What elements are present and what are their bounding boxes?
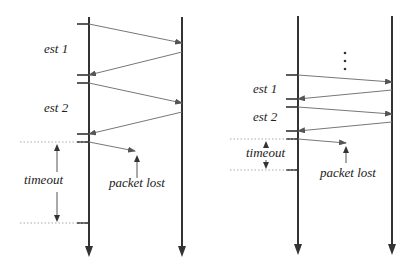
sender-timeline-arrow-icon [85, 246, 93, 257]
right-diagram: est 1est 2timeoutpacket lost [230, 16, 396, 255]
timeout-up-arrow-icon-head [54, 144, 60, 151]
packet-lost-label: packet lost [319, 165, 376, 180]
receiver-timeline-arrow-icon [388, 244, 396, 255]
message-arrow [89, 112, 182, 134]
sender-timeline-arrow-icon [294, 244, 302, 255]
lost-packet-arrow [298, 139, 346, 143]
left-diagram: est 1est 2timeoutpacket lost [20, 17, 186, 257]
ellipsis-dot [344, 60, 347, 63]
diagram-canvas: est 1est 2timeoutpacket lostest 1est 2ti… [0, 0, 418, 269]
packet-lost-label: packet lost [108, 175, 165, 190]
ellipsis-dot [344, 68, 347, 71]
message-arrow [89, 52, 182, 75]
est-2-label: est 2 [44, 100, 69, 115]
timeout-label: timeout [246, 145, 285, 160]
message-arrow [298, 75, 392, 82]
message-arrow [298, 107, 392, 114]
message-arrow [298, 122, 392, 131]
est-2-label: est 2 [253, 109, 278, 124]
ellipsis-dot [344, 52, 347, 55]
message-arrow [89, 24, 182, 43]
packet-lost-pointer-arrow-icon-head [134, 155, 140, 162]
lost-packet-arrow [89, 142, 135, 151]
est-1-label: est 1 [44, 41, 68, 56]
timeout-label: timeout [24, 172, 63, 187]
message-arrow [89, 83, 182, 103]
timeout-down-arrow-icon-head [263, 162, 269, 169]
receiver-timeline-arrow-icon [178, 246, 186, 257]
message-arrow [298, 90, 392, 99]
timeout-down-arrow-icon-head [54, 215, 60, 222]
packet-lost-pointer-arrow-icon-head [343, 146, 349, 153]
timeout-diagram: est 1est 2timeoutpacket lostest 1est 2ti… [0, 0, 418, 269]
est-1-label: est 1 [253, 81, 277, 96]
